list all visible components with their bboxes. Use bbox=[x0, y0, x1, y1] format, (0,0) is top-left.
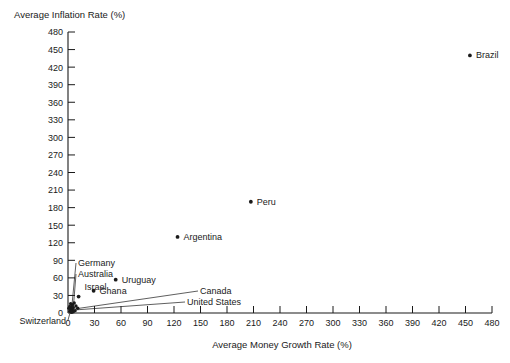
y-tick-label: 270 bbox=[48, 150, 63, 160]
x-tick-label: 240 bbox=[272, 318, 287, 328]
x-tick-label: 480 bbox=[484, 318, 499, 328]
x-tick-label: 150 bbox=[193, 318, 208, 328]
point-label: Brazil bbox=[476, 50, 499, 60]
point-label: Argentina bbox=[184, 232, 223, 242]
data-point-dot bbox=[176, 235, 180, 239]
axis-lines-group bbox=[68, 32, 492, 313]
cluster-data-dot bbox=[72, 301, 75, 304]
cluster-data-dot bbox=[69, 302, 72, 305]
y-tick-label: 420 bbox=[48, 63, 63, 73]
y-tick-label: 60 bbox=[53, 273, 63, 283]
x-tick-label: 330 bbox=[352, 318, 367, 328]
data-point-dot bbox=[77, 295, 81, 299]
y-tick-label: 120 bbox=[48, 238, 63, 248]
y-axis-title: Average Inflation Rate (%) bbox=[14, 9, 125, 20]
x-tick-label: 360 bbox=[378, 318, 393, 328]
point-label: Switzerland bbox=[19, 316, 66, 326]
cluster-data-dot bbox=[76, 307, 79, 310]
cluster-dots-group bbox=[67, 301, 79, 314]
scatter-plot-figure: 0306090120150180210240270300330360390420… bbox=[0, 0, 510, 363]
data-point-dot bbox=[468, 54, 472, 58]
x-tick-label: 420 bbox=[431, 318, 446, 328]
point-label: Australia bbox=[78, 269, 113, 279]
y-tick-label: 90 bbox=[53, 256, 63, 266]
y-tick-label: 480 bbox=[48, 27, 63, 37]
y-tick-label: 390 bbox=[48, 80, 63, 90]
point-label: Israel bbox=[85, 282, 107, 292]
cluster-data-dot bbox=[70, 311, 73, 314]
point-label: Germany bbox=[78, 258, 116, 268]
y-tick-label: 450 bbox=[48, 45, 63, 55]
tick-labels-group: 0306090120150180210240270300330360390420… bbox=[48, 27, 500, 328]
y-tick-label: 330 bbox=[48, 115, 63, 125]
x-tick-label: 210 bbox=[246, 318, 261, 328]
x-tick-label: 30 bbox=[89, 318, 99, 328]
label-leader-line bbox=[73, 302, 185, 310]
cluster-data-dot bbox=[67, 307, 70, 310]
data-points-group: BrazilPeruArgentinaUruguayGhanaIsraelGer… bbox=[19, 50, 498, 326]
point-label: Peru bbox=[257, 197, 276, 207]
point-label: Canada bbox=[200, 286, 232, 296]
x-axis-title: Average Money Growth Rate (%) bbox=[212, 339, 352, 350]
x-tick-label: 300 bbox=[325, 318, 340, 328]
x-tick-label: 60 bbox=[116, 318, 126, 328]
chart-canvas: 0306090120150180210240270300330360390420… bbox=[0, 0, 510, 363]
x-tick-label: 270 bbox=[299, 318, 314, 328]
data-point-dot bbox=[114, 278, 118, 282]
y-tick-label: 360 bbox=[48, 98, 63, 108]
x-tick-label: 180 bbox=[219, 318, 234, 328]
x-tick-label: 450 bbox=[458, 318, 473, 328]
y-tick-label: 210 bbox=[48, 185, 63, 195]
y-tick-label: 180 bbox=[48, 203, 63, 213]
x-tick-label: 390 bbox=[405, 318, 420, 328]
x-tick-label: 90 bbox=[142, 318, 152, 328]
y-tick-label: 30 bbox=[53, 291, 63, 301]
y-tick-label: 240 bbox=[48, 168, 63, 178]
data-point-dot bbox=[249, 200, 253, 204]
label-leader-line bbox=[75, 291, 198, 309]
y-tick-label: 300 bbox=[48, 133, 63, 143]
x-tick-label: 120 bbox=[166, 318, 181, 328]
point-label: United States bbox=[187, 297, 242, 307]
y-tick-label: 150 bbox=[48, 221, 63, 231]
tick-marks-group bbox=[68, 32, 492, 313]
point-label: Uruguay bbox=[122, 275, 157, 285]
